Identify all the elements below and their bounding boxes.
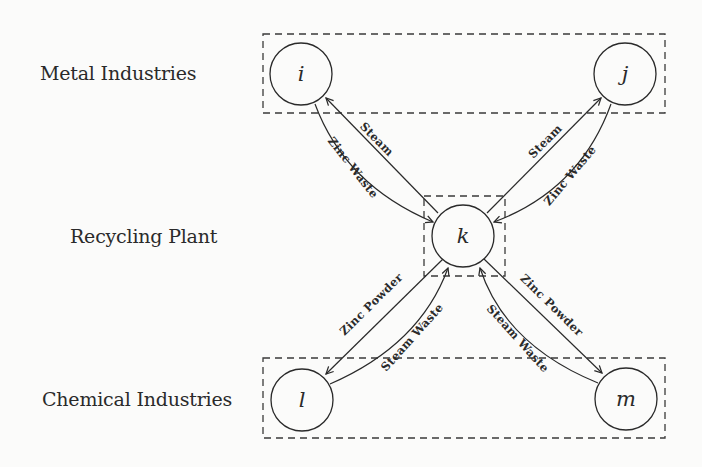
- edge-label-zinc-waste-j-k: Zinc Waste: [541, 143, 599, 208]
- edge-label-zinc-powder-k-m: Zinc Powder: [517, 271, 586, 339]
- edge-label-steam-waste-l-k: Steam Waste: [378, 301, 446, 375]
- edge-zinc-waste-i-to-k: [315, 104, 433, 222]
- node-label-i: i: [298, 62, 305, 86]
- edge-label-steam-k-i: Steam: [357, 119, 396, 159]
- edge-label-steam-waste-m-k: Steam Waste: [484, 302, 552, 376]
- node-label-k: k: [457, 224, 470, 248]
- edge-label-zinc-powder-k-l: Zinc Powder: [337, 270, 406, 338]
- node-label-l: l: [299, 388, 306, 412]
- flow-diagram: Steam Zinc Waste Steam Zinc Waste Zinc P…: [0, 0, 702, 467]
- node-label-m: m: [616, 387, 636, 411]
